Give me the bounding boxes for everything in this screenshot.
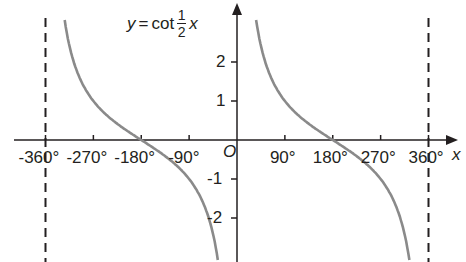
x-tick-label: -90°: [168, 149, 199, 166]
origin-label: O: [223, 143, 236, 160]
chart-title: y = cot 1 2 x: [127, 8, 198, 39]
x-tick-label: 180°: [313, 149, 348, 166]
x-tick-label: 360°: [409, 149, 444, 166]
y-axis-arrow-icon: [232, 3, 242, 15]
x-tick-label: 270°: [361, 149, 396, 166]
x-tick-label: -270°: [66, 149, 107, 166]
y-tick-label: -2: [207, 209, 222, 226]
x-axis-label: x: [452, 146, 461, 163]
axes: [14, 3, 458, 262]
x-tick-label: -360°: [19, 149, 60, 166]
x-axis-arrow-icon: [446, 135, 458, 145]
y-tick-label: 1: [216, 92, 225, 109]
fraction-half: 1 2: [177, 8, 186, 39]
x-tick-label: 90°: [270, 149, 296, 166]
cotangent-graph: [0, 0, 466, 262]
x-tick-label: -180°: [114, 149, 155, 166]
y-tick-label: -1: [207, 170, 222, 187]
y-tick-label: 2: [216, 53, 225, 70]
